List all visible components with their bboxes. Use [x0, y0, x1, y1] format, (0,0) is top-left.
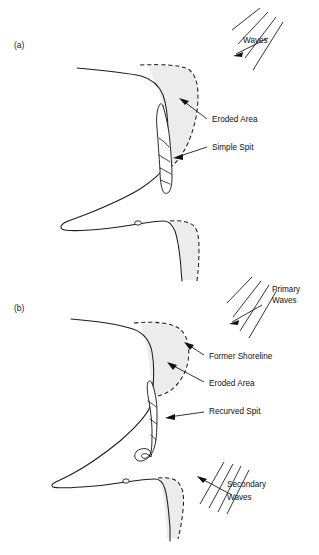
wave-crest-line	[200, 462, 224, 504]
panel-label-a: (a)	[14, 40, 25, 50]
wave-crest-line	[233, 281, 261, 317]
panel-label-b: (b)	[14, 303, 25, 313]
wave-set-primary-b	[227, 277, 277, 338]
wave-crest-line	[240, 285, 269, 331]
lagoon-marker-a	[135, 221, 142, 225]
label-recurved-spit-b: Recurved Spit	[209, 407, 261, 416]
recurved-spit-b	[135, 381, 157, 461]
label-eroded-area-b: Eroded Area	[209, 379, 255, 388]
spit-formation-diagram: Waves Eroded Area Simple Spit (a)	[0, 0, 319, 555]
wave-crest-line	[232, 8, 260, 30]
label-eroded-area-a: Eroded Area	[212, 115, 258, 124]
eroded-area-shading-b2	[160, 478, 183, 538]
wave-crest-line	[227, 470, 249, 514]
leader-head-recurved-spit-b	[165, 414, 175, 420]
panel-a: Waves Eroded Area Simple Spit (a)	[14, 8, 283, 281]
eroded-area-shading-a	[148, 66, 198, 166]
label-secondary-waves-line2: Waves	[227, 493, 252, 502]
label-simple-spit-a: Simple Spit	[212, 143, 254, 152]
label-primary-waves-line2: Waves	[272, 296, 297, 305]
wave-crest-line	[253, 22, 283, 70]
label-waves-a: Waves	[243, 36, 268, 45]
wave-direction-arrow-head	[197, 476, 207, 483]
figure-root: Waves Eroded Area Simple Spit (a)	[0, 0, 319, 555]
lagoon-marker-b	[123, 479, 129, 483]
label-primary-waves-line1: Primary	[272, 285, 301, 294]
label-former-shoreline-b: Former Shoreline	[209, 352, 273, 361]
label-secondary-waves-line1: Secondary	[227, 480, 267, 489]
panel-b: Primary Waves Former Shoreline Eroded Ar…	[14, 277, 301, 541]
eroded-area-shading-a2	[172, 221, 199, 280]
wave-crest-line	[227, 277, 252, 303]
